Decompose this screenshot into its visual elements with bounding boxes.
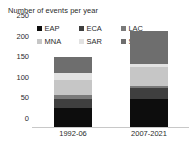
bar-segment-mna-1 bbox=[54, 80, 92, 94]
y-tick-label-200: 200 bbox=[16, 31, 29, 40]
y-tick-label-100: 100 bbox=[16, 72, 29, 81]
x-tick-label-2: 2007-2021 bbox=[119, 129, 179, 138]
x-axis-line bbox=[32, 127, 189, 128]
bar-segment-ssa-1 bbox=[54, 57, 92, 74]
bar-segment-eca-1 bbox=[54, 99, 92, 108]
y-tick-label-0: 0 bbox=[25, 114, 29, 123]
y-tick-label-250: 250 bbox=[16, 11, 29, 20]
stacked-bar-1992-06[interactable] bbox=[54, 57, 92, 127]
bar-segment-eap-1 bbox=[54, 108, 92, 127]
stacked-bar-2007-2021[interactable] bbox=[130, 31, 168, 127]
bar-segment-mna-2 bbox=[130, 67, 168, 86]
bar-segment-eap-2 bbox=[130, 99, 168, 127]
x-tick-label-1: 1992-06 bbox=[43, 129, 103, 138]
y-tick-label-150: 150 bbox=[16, 52, 29, 61]
bar-segment-eca-2 bbox=[130, 88, 168, 99]
y-tick-label-50: 50 bbox=[21, 93, 29, 102]
bar-segment-sar-1 bbox=[54, 73, 92, 80]
chart-container: Number of events per year EAP ECA LAC MN… bbox=[0, 0, 195, 151]
plot-area: 050100150200250 1992-06 2007-2021 bbox=[32, 24, 189, 128]
bar-segment-ssa-2 bbox=[130, 31, 168, 64]
